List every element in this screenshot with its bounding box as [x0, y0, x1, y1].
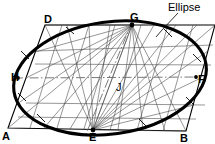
vertex-label-A: A — [2, 131, 10, 142]
vertex-label-D: D — [44, 14, 52, 25]
vertex-label-E: E — [89, 132, 96, 143]
vertex-label-H: H — [11, 72, 19, 83]
ellipse-callout-label: Ellipse — [168, 2, 200, 13]
figure-canvas — [0, 0, 215, 144]
vertex-label-F: F — [198, 74, 205, 85]
ellipse-construction-figure: Ellipse D G H F J A E B — [0, 0, 215, 144]
vertex-label-G: G — [130, 12, 139, 23]
bounding-parallelogram — [8, 25, 215, 131]
center-label-J: J — [116, 82, 122, 93]
major-axis-centerline — [14, 77, 201, 78]
vertex-label-B: B — [180, 133, 188, 144]
point-G-dot — [130, 23, 135, 28]
